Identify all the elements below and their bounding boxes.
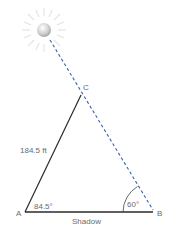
sun-icon [37,23,51,37]
sun-ray-line [50,40,153,210]
angle-a-label: 84.5° [34,202,53,211]
vertex-label-b: B [157,209,162,218]
angle-b-label: 60° [127,200,139,209]
side-length-label: 184.5 ft [20,146,47,155]
vertex-label-a: A [16,209,22,218]
shadow-label: Shadow [72,217,101,226]
vertex-label-c: C [83,83,89,92]
triangle-diagram: C A B 184.5 ft 84.5° 60° Shadow [0,0,175,233]
